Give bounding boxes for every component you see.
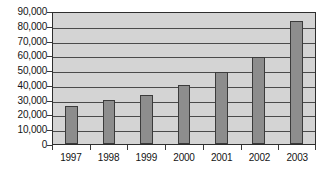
x-axis-tick-mark	[165, 145, 166, 150]
x-axis-tick-mark	[315, 145, 316, 150]
bar-slot	[128, 13, 165, 144]
x-axis-tick-label: 2002	[241, 152, 279, 168]
y-axis-tick-label: 90,000	[3, 7, 47, 17]
y-axis-tick-label: 30,000	[3, 96, 47, 106]
x-axis-tick-cell	[278, 145, 316, 150]
x-axis-tick-cell	[165, 145, 203, 150]
y-axis-tick-label: 40,000	[3, 81, 47, 91]
bar-slot	[203, 13, 240, 144]
bar-chart: 010,00020,00030,00040,00050,00060,00070,…	[0, 0, 325, 173]
bar-slot	[53, 13, 90, 144]
x-axis-labels: 1997199819992000200120022003	[52, 152, 316, 168]
bar-1997	[65, 106, 78, 144]
x-axis-tick-mark	[52, 145, 53, 150]
x-axis-tick-mark	[241, 145, 242, 150]
bar-slot	[240, 13, 277, 144]
x-axis-tick-label: 2001	[203, 152, 241, 168]
bar-1998	[103, 100, 116, 144]
bar-1999	[140, 95, 153, 144]
bar-2000	[178, 85, 191, 144]
x-axis-tick-mark	[203, 145, 204, 150]
bars-group	[53, 13, 315, 144]
x-axis-tick-label: 2003	[278, 152, 316, 168]
y-axis-tick-label: 10,000	[3, 125, 47, 135]
x-axis-tick-cell	[52, 145, 90, 150]
y-axis-tick-label: 70,000	[3, 37, 47, 47]
x-axis-tick-cell	[241, 145, 279, 150]
y-axis-tick-label: 0	[3, 140, 47, 150]
x-axis-tick-label: 1997	[52, 152, 90, 168]
x-axis-tick-cell	[127, 145, 165, 150]
bar-2003	[290, 21, 303, 144]
x-axis-tick-mark	[90, 145, 91, 150]
y-axis-tick-label: 60,000	[3, 51, 47, 61]
bar-slot	[278, 13, 315, 144]
x-axis-tick-label: 1999	[127, 152, 165, 168]
bar-slot	[165, 13, 202, 144]
y-axis-tick-label: 50,000	[3, 66, 47, 76]
x-axis-tick-cell	[90, 145, 128, 150]
bar-2001	[215, 72, 228, 144]
x-axis-tick-label: 1998	[90, 152, 128, 168]
y-axis-tick-label: 20,000	[3, 110, 47, 120]
x-axis-tick-label: 2000	[165, 152, 203, 168]
x-axis-tick-mark	[127, 145, 128, 150]
bar-slot	[90, 13, 127, 144]
bar-2002	[252, 57, 265, 144]
x-axis-tick-mark	[278, 145, 279, 150]
x-axis-tick-cell	[203, 145, 241, 150]
y-axis-tick-label: 80,000	[3, 22, 47, 32]
x-axis-ticks	[52, 145, 316, 150]
plot-area	[52, 12, 316, 145]
y-axis: 010,00020,00030,00040,00050,00060,00070,…	[0, 0, 47, 173]
